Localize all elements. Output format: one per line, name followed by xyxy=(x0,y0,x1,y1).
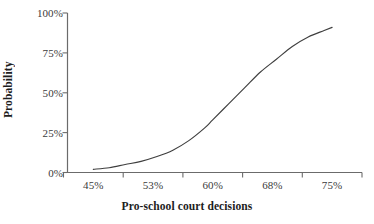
x-tick-label-75: 75% xyxy=(322,179,342,191)
y-tick-label-50: 50% xyxy=(43,87,63,99)
x-axis-ticks xyxy=(64,173,363,178)
x-tick-label-60: 60% xyxy=(202,179,222,191)
probability-curve xyxy=(93,27,332,169)
y-tick-label-0: 0% xyxy=(48,167,63,179)
x-tick-label-53: 53% xyxy=(143,179,163,191)
y-axis-ticks xyxy=(63,13,68,173)
x-tick-label-45: 45% xyxy=(83,179,103,191)
chart-figure: 100% 75% 50% 25% 0% 45% 53% 60% 68% 75% … xyxy=(0,0,374,224)
y-tick-label-25: 25% xyxy=(43,127,63,139)
y-tick-label-75: 75% xyxy=(43,47,63,59)
x-axis-title: Pro-school court decisions xyxy=(0,200,374,212)
plot-area xyxy=(0,0,374,224)
x-tick-label-68: 68% xyxy=(262,179,282,191)
y-axis-title: Probability xyxy=(2,50,20,130)
y-tick-label-100: 100% xyxy=(37,7,63,19)
